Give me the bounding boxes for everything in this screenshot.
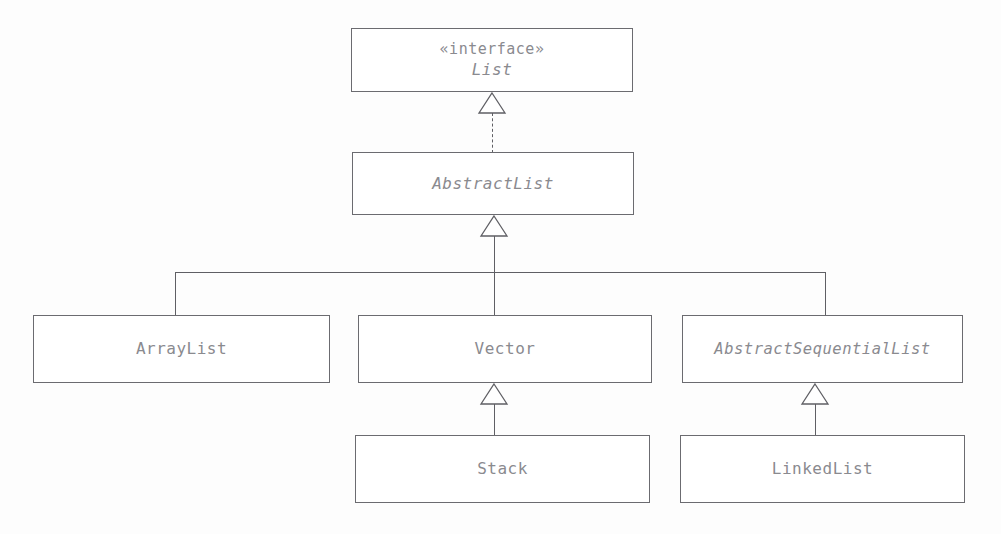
class-box-abstractlist[interactable]: AbstractList (352, 152, 634, 215)
edge-children-to-abstractlist-stem (494, 236, 495, 272)
edge-linkedlist-to-abstractsequentiallist-stem (815, 404, 816, 435)
class-box-stack[interactable]: Stack (355, 435, 650, 503)
class-box-abstractsequentiallist[interactable]: AbstractSequentialList (682, 315, 963, 383)
class-box-vector[interactable]: Vector (358, 315, 652, 383)
edge-arraylist-drop (175, 272, 176, 315)
class-name-list: List (472, 59, 513, 81)
edge-abstractsequentiallist-drop (825, 272, 826, 315)
class-name-arraylist: ArrayList (136, 338, 227, 360)
class-name-abstractlist: AbstractList (432, 173, 554, 195)
class-name-vector: Vector (475, 338, 536, 360)
class-name-abstractsequentiallist: AbstractSequentialList (714, 339, 930, 360)
edge-abstractlist-to-list-stem (492, 113, 493, 153)
class-stereotype-list: «interface» (440, 39, 545, 59)
class-box-arraylist[interactable]: ArrayList (33, 315, 330, 383)
edge-vector-drop (494, 272, 495, 315)
class-name-linkedlist: LinkedList (772, 458, 873, 480)
uml-class-diagram-canvas: «interface» List AbstractList ArrayList … (0, 0, 1001, 534)
edge-stack-to-vector-stem (494, 404, 495, 435)
class-name-stack: Stack (477, 458, 528, 480)
class-box-linkedlist[interactable]: LinkedList (680, 435, 965, 503)
class-box-list[interactable]: «interface» List (351, 28, 633, 92)
generalization-bus-horizontal (175, 272, 825, 273)
